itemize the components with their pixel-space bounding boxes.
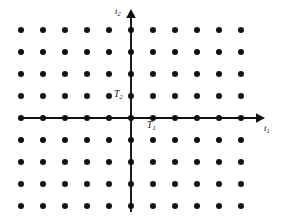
- vertical-axis: [126, 9, 136, 212]
- lattice-figure: t1 t2 T1 T2: [0, 0, 285, 219]
- axis-layer: [0, 0, 285, 219]
- vertical-axis-label: t2: [115, 7, 121, 16]
- sampling-period-t2-label: T2: [114, 90, 123, 100]
- horizontal-axis-label: t1: [264, 124, 270, 133]
- horizontal-axis-arrowhead: [256, 113, 265, 123]
- vertical-axis-arrowhead: [126, 9, 136, 18]
- sampling-period-t1-label: T1: [147, 121, 156, 131]
- horizontal-axis: [22, 113, 265, 123]
